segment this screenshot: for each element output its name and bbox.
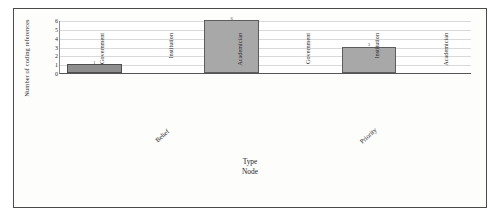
y-tick-label: 4 [55,36,58,42]
x-group-label: Belief [146,120,179,151]
bar: 1 [67,64,122,73]
x-category-label: Government [303,33,312,77]
x-axis-title-line: Node [14,167,486,177]
y-tick-label: 5 [55,27,58,33]
bar-value-label: 1 [93,60,95,65]
chart-figure: Number of coding references 0123456 163 … [13,8,487,208]
bar: 6 [204,20,259,73]
x-group-label: Priority [352,120,385,151]
y-tick-label: 3 [55,45,58,51]
x-category-label: Institution [372,33,381,77]
x-category-label: Academician [235,33,244,77]
gridline [60,30,471,31]
y-tick-label: 0 [55,71,58,77]
bar-value-label: 6 [230,16,232,21]
y-tick-label: 6 [55,18,58,24]
x-category-label: Institution [166,33,175,77]
x-axis-title: TypeNode [14,157,486,176]
gridline [60,39,471,40]
gridline [60,48,471,49]
bar: 3 [342,47,397,74]
plot-area: 0123456 163 [59,21,471,74]
y-tick-label: 1 [55,62,58,68]
bar-value-label: 3 [368,42,370,47]
y-tick-label: 2 [55,53,58,59]
x-category-label: Government [97,33,106,77]
plot-inner: 0123456 163 [59,21,471,74]
gridline [60,56,471,57]
gridline [60,21,471,22]
x-category-label: Academician [441,33,450,77]
x-axis-title-line: Type [14,157,486,167]
y-axis-title: Number of coding references [20,19,34,97]
